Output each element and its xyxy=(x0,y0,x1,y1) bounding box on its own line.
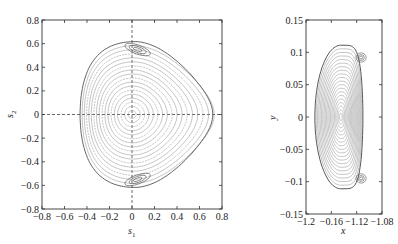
y-tick-label: 0.2 xyxy=(27,85,40,96)
orbit-contour xyxy=(330,88,350,145)
x-tick-label: 0.4 xyxy=(171,211,184,222)
x-tick-label: 0.8 xyxy=(216,211,229,222)
x-tick-label: 0 xyxy=(130,211,135,222)
x-tick-label: −0.2 xyxy=(100,211,118,222)
orbit-contour xyxy=(338,110,343,124)
orbit-contour xyxy=(334,99,347,135)
x-tick-label: −0.16 xyxy=(320,216,343,227)
island-contour xyxy=(128,44,147,56)
y-tick-label: −0.4 xyxy=(21,156,39,167)
x-tick-label: −0.6 xyxy=(55,211,73,222)
x-tick-label: 0.2 xyxy=(148,211,161,222)
right-phase-plot: −1.2−0.16−1.12−1.08−0.15−0.1−0.0500.050.… xyxy=(267,15,394,237)
x-tick-label: −1.08 xyxy=(370,216,393,227)
x-tick-label: 0.6 xyxy=(193,211,206,222)
island-contour xyxy=(128,174,147,186)
left-xlabel: s1 xyxy=(128,225,136,239)
y-tick-label: 0.1 xyxy=(291,47,304,58)
right-xlabel: x xyxy=(340,225,346,236)
y-tick-label: 0.05 xyxy=(286,79,304,90)
left-phase-plot: −0.8−0.6−0.4−0.200.20.40.60.8−0.8−0.6−0.… xyxy=(4,15,228,240)
island-contour xyxy=(360,56,363,59)
y-tick-label: −0.1 xyxy=(285,176,303,187)
right-ylabel: y xyxy=(267,115,278,121)
left-ylabel: s2 xyxy=(4,110,18,118)
x-tick-label: −0.4 xyxy=(78,211,96,222)
y-tick-label: −0.2 xyxy=(21,133,39,144)
y-tick-label: 0.8 xyxy=(27,15,40,26)
orbit-contour xyxy=(340,113,343,120)
right-contours xyxy=(315,45,366,189)
left-contours xyxy=(42,20,222,209)
y-tick-label: −0.15 xyxy=(280,209,303,220)
x-tick-label: −1.12 xyxy=(345,216,368,227)
figure: −0.8−0.6−0.4−0.200.20.40.60.8−0.8−0.6−0.… xyxy=(0,0,398,244)
island-contour xyxy=(358,176,364,182)
orbit-contour xyxy=(324,70,356,163)
island-contour xyxy=(358,55,364,61)
y-tick-label: 0.15 xyxy=(286,15,304,26)
island-contour xyxy=(356,53,366,62)
y-tick-label: −0.6 xyxy=(21,180,39,191)
y-tick-label: 0.6 xyxy=(27,38,40,49)
y-tick-label: −0.05 xyxy=(280,144,303,155)
y-tick-label: 0 xyxy=(34,109,39,120)
y-tick-label: 0.4 xyxy=(27,62,40,73)
y-tick-label: 0 xyxy=(298,112,303,123)
y-tick-label: −0.8 xyxy=(21,204,39,215)
island-contour xyxy=(360,177,363,180)
